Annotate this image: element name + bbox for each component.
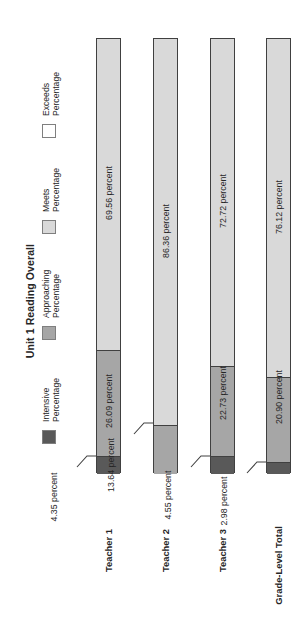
bar-label-meets: 86.36 percent — [161, 194, 171, 269]
callout-leader-line — [132, 410, 162, 436]
category-label-teacher-1: Teacher 1 — [103, 508, 114, 593]
bar-label-approaching: 22.73 percent — [218, 356, 228, 431]
bar-label-intensive: 4.35 percent — [49, 460, 59, 535]
bar-group-grade-level-total: 76.12 percent 20.90 percent 2.98 percent… — [266, 0, 291, 631]
bar-group-teacher-1: 69.56 percent 26.09 percent 4.35 percent… — [96, 0, 121, 631]
bar-label-approaching: 20.90 percent — [274, 360, 284, 435]
bar-label-intensive: 2.98 percent — [219, 464, 229, 539]
callout-leader-line — [245, 449, 275, 475]
bar-group-teacher-2: 86.36 percent 13.64 percent Teacher 2 — [153, 0, 178, 631]
callout-leader-line — [189, 443, 219, 469]
bar-label-meets: 69.56 percent — [104, 156, 114, 231]
category-label-grade-level-total: Grade-Level Total — [273, 518, 284, 613]
plot-area: 69.56 percent 26.09 percent 4.35 percent… — [0, 0, 305, 631]
chart-container: Unit 1 Reading Overall Intensive Percent… — [0, 0, 305, 631]
bar-label-meets: 76.12 percent — [274, 170, 284, 245]
callout-leader-line — [75, 443, 105, 469]
bar-label-meets: 72.72 percent — [218, 164, 228, 239]
bar-label-intensive: 4.55 percent — [163, 458, 173, 533]
bar-label-approaching: 13.64 percent — [106, 428, 116, 503]
